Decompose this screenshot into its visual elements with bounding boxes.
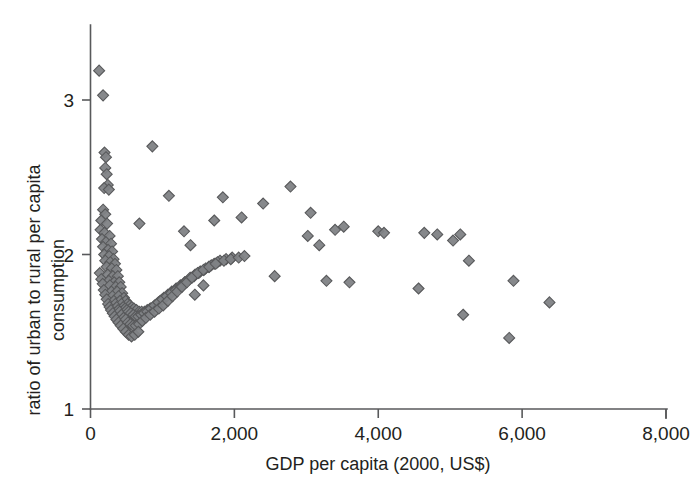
x-axis-tick-label: 4,000 (354, 423, 402, 444)
x-axis-tick-label: 0 (85, 423, 96, 444)
x-axis-tick-label: 6,000 (498, 423, 546, 444)
x-axis-title: GDP per capita (2000, US$) (266, 454, 491, 474)
y-axis-title-line-1: ratio of urban to rural per capita (24, 163, 44, 415)
y-axis-tick-label: 3 (63, 90, 74, 111)
x-axis-tick-label: 2,000 (211, 423, 259, 444)
scatter-plot-figure: 02,0004,0006,0008,000 123 GDP per capita… (0, 0, 699, 483)
x-axis-tick-label: 8,000 (642, 423, 690, 444)
y-axis-title-line-2: consumption (48, 239, 68, 341)
y-axis-tick-label: 1 (63, 399, 74, 420)
